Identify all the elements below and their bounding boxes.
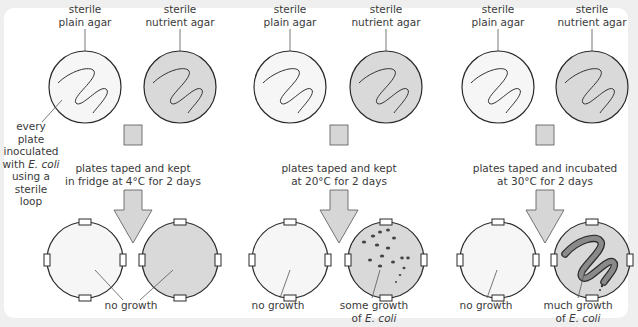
label-nutrient-agar: sterile nutrient agar (145, 3, 214, 28)
plate-nutrient-before (556, 29, 628, 123)
result-label-plain: no growth (460, 299, 513, 312)
label-line: nutrient agar (557, 16, 626, 29)
result-label-nutrient: some growth of E. coli (340, 299, 408, 324)
down-arrow-icon (526, 190, 564, 243)
label-line: no growth (460, 299, 513, 312)
down-arrow-icon (114, 190, 152, 243)
note-line: inoculated (2, 145, 60, 158)
plate-plain-before (49, 29, 121, 123)
organism-name: E. coli (365, 312, 396, 324)
label-line: sterile (557, 3, 626, 16)
label-line: plates taped and kept (281, 162, 396, 175)
label-line: nutrient agar (145, 16, 214, 29)
label-plain-agar: sterile plain agar (264, 3, 317, 28)
label-line: sterile (145, 3, 214, 16)
label-line: much growth (543, 299, 612, 312)
note-line: every plate (2, 120, 60, 145)
label-line: of E. coli (543, 312, 612, 325)
label-line: in fridge at 4°C for 2 days (65, 175, 201, 188)
organism-name: E. coli (28, 158, 59, 170)
label-line: sterile (264, 3, 317, 16)
label-nutrient-agar: sterile nutrient agar (557, 3, 626, 28)
plate-plain-after (457, 219, 539, 301)
plate-nutrient-before (144, 29, 216, 123)
note-line: using a (2, 170, 60, 183)
flow-connector (124, 125, 142, 145)
condition-label: plates taped and kept at 20°C for 2 days (281, 162, 396, 187)
label-line: at 20°C for 2 days (281, 175, 396, 188)
plate-plain-after (249, 219, 331, 301)
label-line: sterile (59, 3, 112, 16)
plate-plain-after (44, 219, 126, 301)
experiment-diagram: every plate inoculated with E. coli usin… (0, 0, 638, 327)
label-line: plain agar (59, 16, 112, 29)
plate-nutrient-after (139, 219, 221, 301)
condition-label: plates taped and kept in fridge at 4°C f… (65, 162, 201, 187)
label-line: plates taped and incubated (473, 162, 618, 175)
label-plain-agar: sterile plain agar (59, 3, 112, 28)
label-line: some growth (340, 299, 408, 312)
plate-nutrient-before (350, 29, 422, 123)
label-line: plates taped and kept (65, 162, 201, 175)
label-line: plain agar (264, 16, 317, 29)
label-text: of (556, 312, 569, 324)
flow-connector (330, 125, 348, 145)
note-line: sterile loop (2, 183, 60, 208)
inoculation-note: every plate inoculated with E. coli usin… (2, 120, 60, 208)
plate-plain-before (254, 29, 326, 123)
label-text: of (352, 312, 365, 324)
label-line: at 30°C for 2 days (473, 175, 618, 188)
label-line: plain agar (472, 16, 525, 29)
note-text: with (3, 158, 29, 170)
label-nutrient-agar: sterile nutrient agar (351, 3, 420, 28)
condition-label: plates taped and incubated at 30°C for 2… (473, 162, 618, 187)
label-plain-agar: sterile plain agar (472, 3, 525, 28)
down-arrow-icon (320, 190, 358, 243)
result-label-plain: no growth (252, 299, 305, 312)
label-line: no growth (105, 299, 158, 312)
result-label: no growth (105, 299, 158, 312)
label-line: sterile (472, 3, 525, 16)
label-line: nutrient agar (351, 16, 420, 29)
label-line: of E. coli (340, 312, 408, 325)
plate-nutrient-after-some-growth (345, 219, 427, 301)
plate-nutrient-after-much-growth (551, 219, 633, 301)
organism-name: E. coli (569, 312, 600, 324)
note-line: with E. coli (2, 158, 60, 171)
label-line: sterile (351, 3, 420, 16)
plate-plain-before (462, 29, 534, 123)
flow-connector (536, 125, 554, 145)
label-line: no growth (252, 299, 305, 312)
result-label-nutrient: much growth of E. coli (543, 299, 612, 324)
